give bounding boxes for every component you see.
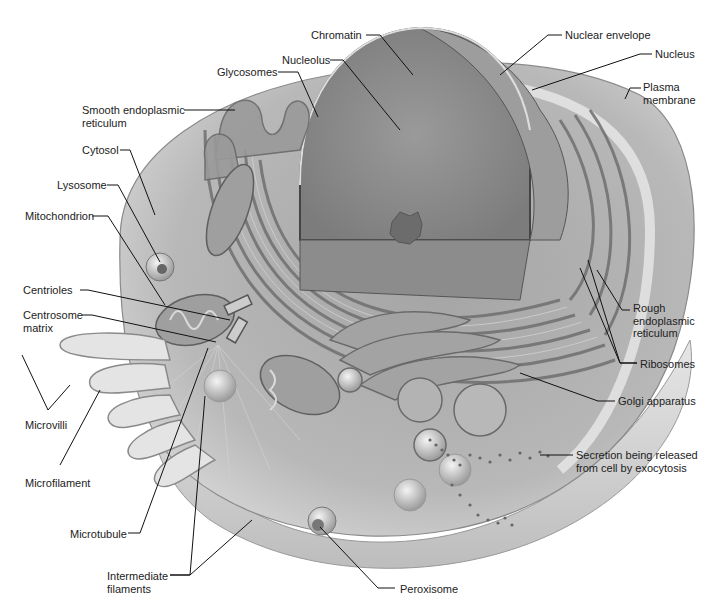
label-mitochondrion: Mitochondrion: [25, 210, 94, 223]
cell-diagram: Chromatin Nuclear envelope Nucleolus Nuc…: [0, 0, 715, 615]
label-peroxisome: Peroxisome: [400, 583, 458, 596]
label-nuclear-envelope: Nuclear envelope: [565, 29, 651, 42]
label-nucleus: Nucleus: [655, 48, 695, 61]
label-centrosome-matrix: Centrosome matrix: [23, 309, 83, 334]
label-rough-er: Rough endoplasmic reticulum: [633, 302, 695, 340]
label-golgi-apparatus: Golgi apparatus: [618, 395, 696, 408]
label-lysosome: Lysosome: [57, 179, 107, 192]
label-smooth-er: Smooth endoplasmic reticulum: [82, 104, 185, 129]
label-secretion: Secretion being released from cell by ex…: [576, 449, 698, 474]
label-cytosol: Cytosol: [82, 144, 119, 157]
label-chromatin: Chromatin: [311, 29, 362, 42]
label-plasma-membrane: Plasma membrane: [643, 81, 696, 106]
label-microvilli: Microvilli: [25, 419, 67, 432]
cell-illustration: [0, 0, 715, 615]
label-microtubule: Microtubule: [70, 528, 127, 541]
label-glycosomes: Glycosomes: [217, 66, 278, 79]
label-microfilament: Microfilament: [25, 477, 90, 490]
label-centrioles: Centrioles: [23, 284, 73, 297]
label-nucleolus: Nucleolus: [282, 54, 330, 67]
label-ribosomes: Ribosomes: [640, 358, 695, 371]
label-intermediate-filaments: Intermediate filaments: [107, 570, 168, 595]
